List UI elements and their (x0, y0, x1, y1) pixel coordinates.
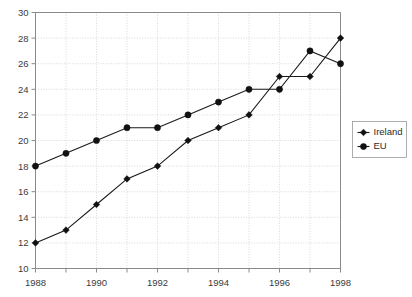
data-point-ireland (32, 240, 39, 247)
y-axis-tick-label: 28 (18, 33, 29, 44)
data-point-eu (63, 150, 69, 156)
data-point-eu (185, 112, 191, 118)
y-axis-tick-label: 20 (18, 135, 29, 146)
line-chart: 1012141618202224262830 19881990199219941… (0, 0, 412, 297)
y-axis-tick-label: 30 (18, 7, 29, 18)
y-axis-tick-label: 10 (18, 263, 29, 274)
x-axis-tick-label: 1988 (25, 277, 46, 288)
data-point-eu (215, 99, 221, 105)
series-group (32, 35, 344, 246)
x-axis-tick-label: 1996 (269, 277, 290, 288)
y-axis-tick-label: 12 (18, 237, 29, 248)
chart-legend: IrelandEU (353, 122, 407, 158)
data-point-eu (276, 86, 282, 92)
y-axis-tick-label: 16 (18, 186, 29, 197)
y-axis-tick-label: 26 (18, 58, 29, 69)
legend-marker-eu (360, 143, 366, 149)
data-point-eu (32, 163, 38, 169)
y-axis-tick-label: 18 (18, 161, 29, 172)
y-axis-tick-label: 14 (18, 212, 29, 223)
y-axis-labels-group: 1012141618202224262830 (18, 7, 29, 274)
data-point-eu (337, 61, 343, 67)
data-point-eu (124, 125, 130, 131)
x-axis-labels-group: 198819901992199419961998 (25, 277, 351, 288)
legend-label-eu: EU (374, 140, 387, 151)
x-axis-tick-label: 1992 (147, 277, 168, 288)
x-axis-tick-label: 1994 (208, 277, 229, 288)
chart-canvas: 1012141618202224262830 19881990199219941… (0, 0, 412, 297)
data-point-eu (307, 48, 313, 54)
series-line-eu (36, 51, 341, 166)
cropped-title-remnant (22, 0, 322, 1)
legend-label-ireland: Ireland (374, 126, 403, 137)
data-point-eu (93, 137, 99, 143)
x-axis-tick-label: 1990 (86, 277, 107, 288)
x-axis-tick-label: 1998 (330, 277, 351, 288)
data-point-eu (246, 86, 252, 92)
y-axis-tick-label: 24 (18, 84, 29, 95)
data-point-eu (154, 125, 160, 131)
data-point-ireland (215, 124, 222, 131)
y-axis-tick-label: 22 (18, 109, 29, 120)
